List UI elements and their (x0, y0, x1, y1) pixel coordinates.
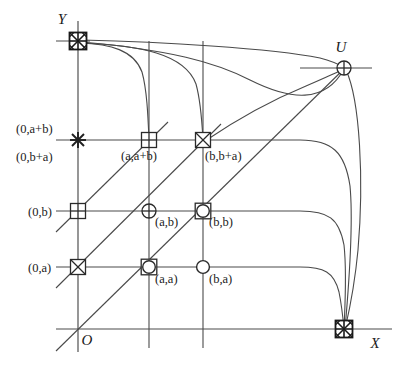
marker-a-a-plus-b (142, 133, 157, 148)
label-0-b: (0,b) (28, 205, 52, 219)
diagram-canvas: Y X O U (0,a+b) (0,b+a) (0,b) (0,a) (a,a… (0, 0, 411, 366)
marker-a-b (142, 204, 156, 218)
curve-x-b-to-U-lower (205, 69, 344, 141)
point-labels-group: (a,a+b) (b,b+a) (a,b) (b,b) (a,a) (b,a) (121, 149, 242, 286)
lattice-diagram-svg: Y X O U (0,a+b) (0,b+a) (0,b) (0,a) (a,a… (0, 0, 411, 366)
label-a-b: (a,b) (155, 215, 178, 229)
label-b-b: (b,b) (209, 215, 233, 229)
curve-topleft-to-x-b (80, 43, 203, 140)
vertical-gridlines-group (149, 41, 203, 348)
marker-0-a-plus-b (70, 132, 86, 148)
marker-0-a (71, 260, 86, 275)
curve-topleft-to-U-upper (82, 40, 345, 68)
curve-topleft-to-x-a (80, 43, 149, 140)
y-axis-label: Y (58, 11, 68, 27)
marker-b-a (197, 261, 210, 274)
label-b-b-plus-a: (b,b+a) (205, 149, 242, 163)
label-0-b-plus-a: (0,b+a) (16, 150, 53, 164)
x-axis-label: X (369, 335, 380, 351)
curve-U-to-corner (345, 70, 361, 329)
marker-0-b (71, 204, 86, 219)
curve-y-ab-to-corner (300, 140, 351, 329)
label-b-a: (b,a) (209, 272, 232, 286)
label-a-a: (a,a) (155, 272, 178, 286)
point-U-label: U (336, 39, 348, 55)
label-a-a-plus-b: (a,a+b) (121, 149, 157, 163)
marker-b-b-plus-a (196, 133, 211, 148)
label-0-a: (0,a) (28, 261, 51, 275)
marker-bottom-right-corner (336, 321, 353, 338)
origin-label: O (82, 332, 93, 348)
label-0-a-plus-b: (0,a+b) (16, 122, 53, 136)
marker-top-left-corner (70, 33, 87, 50)
markers-group (70, 33, 353, 338)
axis-value-labels-group: (0,a+b) (0,b+a) (0,b) (0,a) (16, 122, 53, 275)
marker-U (337, 61, 351, 75)
